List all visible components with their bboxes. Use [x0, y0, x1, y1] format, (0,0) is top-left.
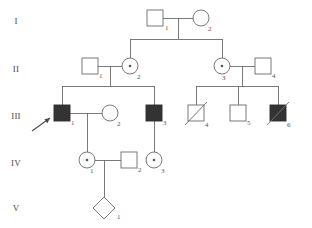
symbol-square-male[interactable] [147, 10, 163, 26]
generation-label-1: I [14, 16, 17, 26]
id-label: 1 [90, 167, 94, 175]
carrier-dot-icon [86, 159, 89, 162]
symbol-circle-female[interactable] [102, 105, 118, 121]
individual-III-6[interactable]: 6 [267, 102, 291, 129]
individual-II-3[interactable]: 3 [214, 58, 230, 82]
symbol-circle-female[interactable] [193, 10, 209, 26]
id-label: 1 [99, 72, 103, 80]
individual-III-4[interactable]: 4 [185, 102, 209, 129]
id-label: 2 [138, 166, 142, 174]
id-label: 6 [287, 121, 291, 129]
id-label: 4 [272, 72, 276, 80]
individual-V-1[interactable]: 1 [93, 197, 121, 221]
symbol-square-male[interactable] [82, 58, 98, 74]
individual-III-3[interactable]: 3 [146, 105, 167, 127]
generation-labels: I II III IV V [11, 16, 21, 213]
pedigree-chart: I II III IV V [0, 0, 312, 228]
individual-IV-3[interactable]: 3 [146, 152, 165, 175]
symbol-diamond-unknown-sex[interactable] [93, 197, 115, 219]
id-label: 2 [137, 73, 141, 81]
individual-IV-2[interactable]: 2 [121, 152, 142, 174]
id-label: 3 [222, 74, 226, 82]
individual-I-2[interactable]: 2 [193, 10, 212, 33]
individual-I-1[interactable]: 1 [147, 10, 169, 32]
generation-label-2: II [13, 64, 19, 74]
generation-label-5: V [13, 203, 20, 213]
carrier-dot-icon [153, 159, 156, 162]
individual-II-2[interactable]: 2 [122, 58, 141, 81]
symbol-square-male-affected[interactable] [146, 105, 162, 121]
individual-III-5[interactable]: 5 [230, 105, 251, 127]
id-label: 1 [117, 213, 121, 221]
individual-II-4[interactable]: 4 [255, 58, 276, 80]
id-label: 2 [208, 25, 212, 33]
individual-IV-1[interactable]: 1 [79, 152, 95, 175]
proband-arrow-head-icon [44, 118, 50, 123]
individual-III-1[interactable]: 1 [32, 105, 75, 131]
id-label: 1 [71, 119, 75, 127]
id-label: 4 [205, 121, 209, 129]
pedigree-canvas: I II III IV V [0, 0, 312, 228]
id-label: 2 [117, 120, 121, 128]
id-label: 3 [161, 167, 165, 175]
symbol-square-male-affected[interactable] [54, 105, 70, 121]
individual-III-2[interactable]: 2 [102, 105, 121, 128]
generation-label-4: IV [11, 158, 21, 168]
symbol-square-male[interactable] [121, 152, 137, 168]
carrier-dot-icon [129, 65, 132, 68]
symbol-square-male[interactable] [255, 58, 271, 74]
carrier-dot-icon [221, 65, 224, 68]
symbol-square-male[interactable] [230, 105, 246, 121]
id-label: 5 [247, 119, 251, 127]
generation-label-3: III [11, 111, 21, 121]
id-label: 1 [165, 24, 169, 32]
individual-II-1[interactable]: 1 [82, 58, 103, 80]
id-label: 3 [163, 119, 167, 127]
